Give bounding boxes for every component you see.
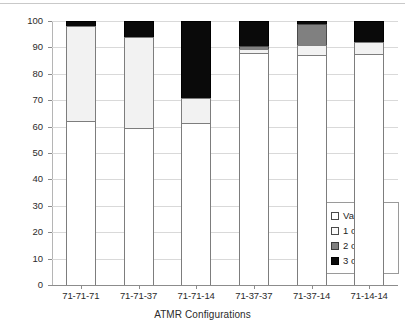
stacked-bar[interactable] <box>181 21 211 285</box>
y-tick-label: 90 <box>0 42 43 52</box>
bar-segment-3-out-of-3[interactable] <box>354 21 384 42</box>
x-tick-label: 71-14-14 <box>339 290 399 301</box>
bar-segment-1-out-of-3[interactable] <box>354 42 384 54</box>
stacked-bar[interactable] <box>239 21 269 285</box>
bar-segment-vanished[interactable] <box>124 128 154 285</box>
white-square-icon <box>331 212 339 220</box>
x-tick-label: 71-71-37 <box>109 290 169 301</box>
y-tick-label: 20 <box>0 227 43 237</box>
x-axis-title: ATMR Configurations <box>0 309 405 320</box>
stacked-bar[interactable] <box>124 21 154 285</box>
bar-segment-3-out-of-3[interactable] <box>124 21 154 37</box>
gray-square-icon <box>331 242 339 250</box>
x-tick-label: 71-37-14 <box>282 290 342 301</box>
x-tick-mark <box>81 285 82 289</box>
y-tick-mark <box>48 285 52 286</box>
y-tick-label: 10 <box>0 254 43 264</box>
y-tick-label: 40 <box>0 174 43 184</box>
stacked-bar[interactable] <box>297 21 327 285</box>
light-square-icon <box>331 227 339 235</box>
x-tick-label: 71-71-14 <box>166 290 226 301</box>
black-square-icon <box>331 257 339 265</box>
bar-segment-1-out-of-3[interactable] <box>297 45 327 56</box>
bar-segment-1-out-of-3[interactable] <box>66 26 96 121</box>
bar-segment-vanished[interactable] <box>66 121 96 285</box>
y-tick-label: 0 <box>0 280 43 290</box>
x-tick-mark <box>139 285 140 289</box>
x-tick-mark <box>254 285 255 289</box>
x-tick-mark <box>369 285 370 289</box>
x-tick-label: 71-37-37 <box>224 290 284 301</box>
stacked-bar[interactable] <box>66 21 96 285</box>
y-tick-label: 30 <box>0 201 43 211</box>
x-tick-mark <box>196 285 197 289</box>
y-tick-label: 50 <box>0 148 43 158</box>
bar-segment-3-out-of-3[interactable] <box>181 21 211 98</box>
x-tick-mark <box>312 285 313 289</box>
x-axis-line <box>52 285 398 286</box>
bar-segment-vanished[interactable] <box>181 123 211 285</box>
stacked-bar[interactable] <box>354 21 384 285</box>
bar-segment-3-out-of-3[interactable] <box>239 21 269 46</box>
x-tick-label: 71-71-71 <box>51 290 111 301</box>
y-tick-label: 100 <box>0 16 43 26</box>
bar-segment-vanished[interactable] <box>354 54 384 285</box>
bar-segment-1-out-of-3[interactable] <box>181 98 211 123</box>
chart-figure: Error Distribution [%] ATMR Configuratio… <box>0 0 405 333</box>
y-tick-label: 60 <box>0 122 43 132</box>
bar-segment-vanished[interactable] <box>297 55 327 285</box>
bar-segment-1-out-of-3[interactable] <box>124 37 154 128</box>
bar-segment-2-out-of-3[interactable] <box>297 24 327 45</box>
y-tick-label: 70 <box>0 95 43 105</box>
y-tick-label: 80 <box>0 69 43 79</box>
bar-segment-vanished[interactable] <box>239 53 269 285</box>
figure-top-rule <box>0 3 405 4</box>
